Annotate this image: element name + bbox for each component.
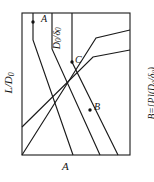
right-axis-label-subscript-2: 0 bbox=[150, 70, 154, 73]
figure-panel: L/D0 A D0/δ0 B=[P](D0/δ0) A C B bbox=[0, 0, 154, 182]
point-marker-c bbox=[70, 60, 73, 63]
point-marker-b bbox=[88, 108, 91, 111]
point-marker-a bbox=[31, 20, 34, 23]
y-axis-label: L/D0 bbox=[2, 60, 16, 106]
x-axis-label: A bbox=[62, 160, 69, 172]
curve-group bbox=[22, 13, 130, 155]
y-axis-label-subscript: 0 bbox=[7, 72, 16, 76]
interior-axis-label-subscript-2: 0 bbox=[55, 27, 63, 31]
interior-axis-label-subscript-1: 0 bbox=[55, 38, 63, 42]
point-label-a: A bbox=[41, 13, 47, 24]
right-axis-label: B=[P](D0/δ0) bbox=[147, 54, 154, 132]
point-label-b: B bbox=[94, 101, 100, 112]
curve-rise-1 bbox=[22, 30, 130, 155]
right-axis-label-subscript-1: 0 bbox=[150, 81, 154, 84]
point-label-c: C bbox=[75, 54, 82, 65]
diagram-canvas bbox=[0, 0, 154, 182]
interior-axis-label: D0/δ0 bbox=[51, 14, 64, 62]
